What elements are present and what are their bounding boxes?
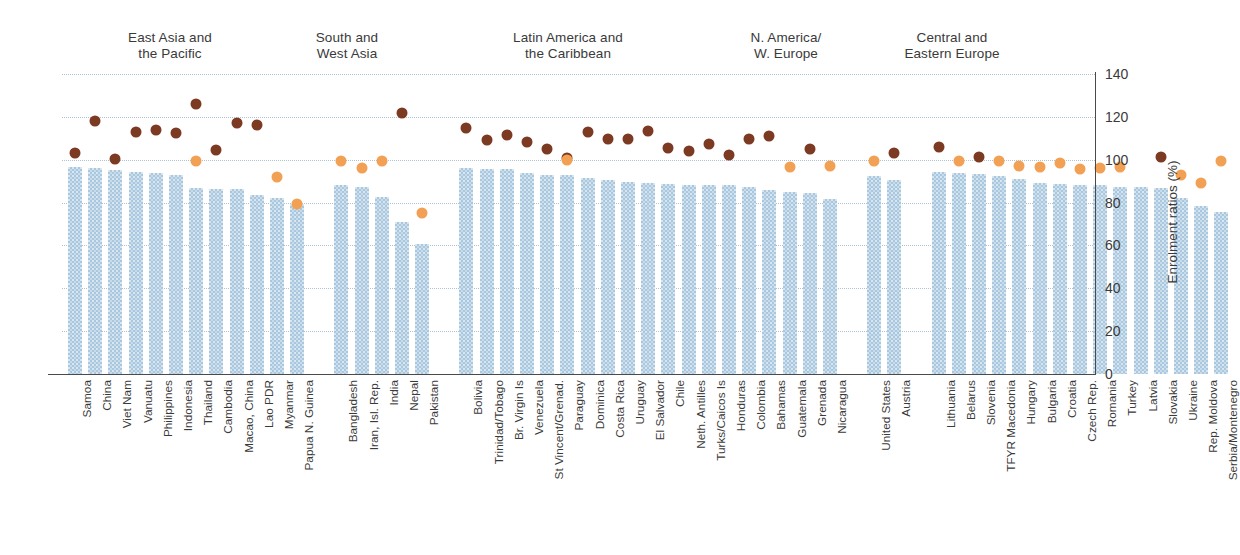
- x-tick-label: Croatia: [1065, 380, 1079, 418]
- bar: [742, 187, 756, 375]
- data-point-female: [784, 162, 795, 173]
- x-tick-label: United States: [879, 380, 893, 451]
- data-point-female: [1196, 178, 1207, 189]
- x-tick-label: Nicaragua: [835, 380, 849, 434]
- bar: [823, 199, 837, 374]
- y-tick-label: 100: [1105, 152, 1128, 168]
- x-tick-label: Venezuela: [532, 380, 546, 435]
- data-point-male: [90, 116, 101, 127]
- x-tick-label: Guatemala: [795, 380, 809, 438]
- group-header-n-america: N. America/ W. Europe: [716, 30, 856, 62]
- data-point-female: [1075, 164, 1086, 175]
- y-tick-label: 40: [1105, 280, 1121, 296]
- bar: [1194, 206, 1208, 374]
- x-tick-label: Viet Nam: [120, 380, 134, 428]
- data-point-male: [171, 127, 182, 138]
- data-point-male: [683, 146, 694, 157]
- bar: [189, 188, 203, 374]
- bar: [169, 175, 183, 374]
- data-point-male: [542, 144, 553, 155]
- bar: [952, 173, 966, 374]
- x-tick-label: Latvia: [1146, 380, 1160, 411]
- group-header-east-asia: East Asia and the Pacific: [90, 30, 250, 62]
- data-point-male: [744, 134, 755, 145]
- data-point-male: [150, 124, 161, 135]
- x-tick-label: Philippines: [161, 380, 175, 437]
- bar: [992, 176, 1006, 374]
- data-point-male: [501, 130, 512, 141]
- data-point-male: [602, 134, 613, 145]
- bar: [932, 172, 946, 375]
- data-point-male: [231, 118, 242, 129]
- data-point-male: [110, 153, 121, 164]
- data-point-female: [994, 155, 1005, 166]
- bar: [1053, 184, 1067, 374]
- bar: [601, 180, 615, 374]
- group-header-central-europe: Central and Eastern Europe: [862, 30, 1042, 62]
- bar: [230, 189, 244, 374]
- bar: [560, 175, 574, 374]
- data-point-male: [251, 120, 262, 131]
- bar: [682, 185, 696, 374]
- y-tick-label: 20: [1105, 323, 1121, 339]
- x-tick-label: Dominica: [593, 380, 607, 429]
- bar: [972, 174, 986, 374]
- bar: [1134, 187, 1148, 375]
- x-tick-label: Turks/Caicos Is: [714, 380, 728, 461]
- x-tick-label: Rep. Moldova: [1206, 380, 1220, 453]
- gridline: [62, 160, 1095, 161]
- data-point-male: [397, 107, 408, 118]
- bar: [520, 173, 534, 374]
- data-point-female: [417, 208, 428, 219]
- bar: [702, 185, 716, 374]
- x-tick-label: China: [100, 380, 114, 411]
- data-point-female: [272, 171, 283, 182]
- y-axis-title: Enrolment ratios (%): [1165, 160, 1180, 283]
- bar: [334, 185, 348, 374]
- data-point-male: [70, 148, 81, 159]
- x-tick-label: Hungary: [1024, 380, 1038, 425]
- bar: [88, 168, 102, 374]
- bar: [108, 170, 122, 374]
- x-tick-label: Slovakia: [1166, 380, 1180, 425]
- bar: [887, 180, 901, 374]
- x-tick-label: Neth. Antilles: [694, 380, 708, 449]
- bar: [68, 167, 82, 374]
- x-tick-label: Samoa: [80, 380, 94, 417]
- bar: [459, 168, 473, 374]
- x-tick-label: Czech Rep.: [1085, 380, 1099, 442]
- x-tick-label: Br. Virgin Is: [512, 380, 526, 440]
- x-tick-label: Uruguay: [633, 380, 647, 425]
- x-tick-label: Turkey: [1125, 380, 1139, 416]
- bar: [661, 184, 675, 374]
- bar: [149, 173, 163, 374]
- x-tick-label: Nepal: [407, 380, 421, 411]
- data-point-male: [663, 142, 674, 153]
- x-tick-label: Papua N. Guinea: [302, 380, 316, 471]
- data-point-female: [825, 161, 836, 172]
- group-header-latin-america: Latin America and the Caribbean: [458, 30, 678, 62]
- x-tick-label: Paraguay: [572, 380, 586, 431]
- y-tick-label: 60: [1105, 237, 1121, 253]
- x-tick-label: Lithuania: [944, 380, 958, 428]
- bar: [1033, 183, 1047, 374]
- x-tick-label: Slovenia: [984, 380, 998, 425]
- gridline: [62, 117, 1095, 118]
- bar: [1012, 179, 1026, 374]
- data-point-female: [292, 198, 303, 209]
- bar: [290, 204, 304, 374]
- x-tick-label: Romania: [1105, 380, 1119, 427]
- data-point-male: [889, 148, 900, 159]
- x-tick-label: Thailand: [201, 380, 215, 425]
- data-point-female: [191, 155, 202, 166]
- bar: [250, 195, 264, 374]
- x-tick-label: Indonesia: [181, 380, 195, 431]
- x-tick-label: St Vincent/Grenad.: [552, 380, 566, 479]
- x-tick-label: Bangladesh: [346, 380, 360, 442]
- data-point-female: [376, 155, 387, 166]
- x-tick-label: Honduras: [734, 380, 748, 431]
- y-tick-label: 80: [1105, 195, 1121, 211]
- bar: [355, 187, 369, 375]
- x-tick-label: Myanmar: [282, 380, 296, 429]
